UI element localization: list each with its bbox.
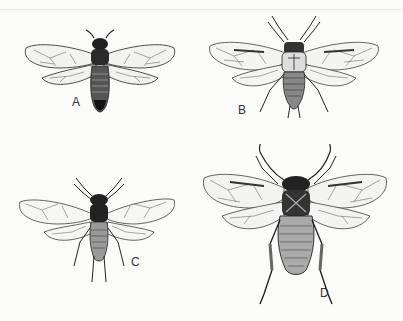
specimen-label-b: B	[238, 104, 246, 116]
specimen-label-c: C	[131, 256, 140, 268]
sawfly-a-illustration	[20, 28, 180, 120]
sawfly-b-illustration	[204, 12, 384, 120]
sawfly-d-illustration	[200, 144, 390, 314]
sawfly-c-illustration	[16, 178, 176, 290]
specimen-label-d: D	[320, 287, 329, 299]
figure: A B	[0, 0, 403, 321]
scan-edge-line	[0, 9, 403, 10]
specimen-label-a: A	[72, 96, 80, 108]
